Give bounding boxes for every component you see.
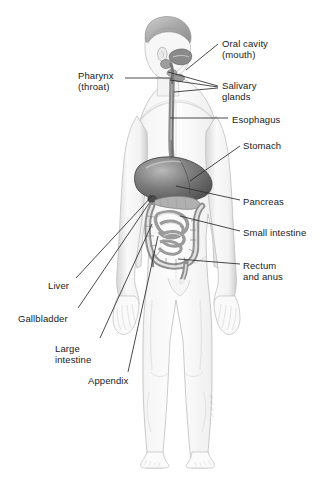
- anatomy-illustration: [0, 0, 326, 480]
- label-rectum-anus: Rectum and anus: [243, 260, 283, 282]
- body-silhouette: [129, 46, 227, 468]
- right-hand: [214, 296, 240, 335]
- label-salivary-glands: Salivary glands: [222, 80, 257, 102]
- diagram-canvas: Oral cavity (mouth)Pharynx (throat)Saliv…: [0, 0, 326, 480]
- label-small-intestine: Small intestine: [243, 227, 306, 238]
- label-liver: Liver: [48, 280, 69, 291]
- label-gallbladder: Gallbladder: [18, 313, 68, 324]
- label-pancreas: Pancreas: [243, 196, 284, 207]
- label-esophagus: Esophagus: [232, 114, 280, 125]
- right-arm: [206, 116, 237, 310]
- label-large-intestine: Large intestine: [55, 343, 91, 365]
- ear: [158, 47, 167, 61]
- label-pharynx: Pharynx (throat): [78, 70, 114, 92]
- label-appendix: Appendix: [88, 375, 128, 386]
- torso-and-limbs: [113, 46, 240, 468]
- label-stomach: Stomach: [243, 140, 281, 151]
- label-oral-cavity: Oral cavity (mouth): [222, 38, 268, 60]
- left-foot: [141, 452, 169, 468]
